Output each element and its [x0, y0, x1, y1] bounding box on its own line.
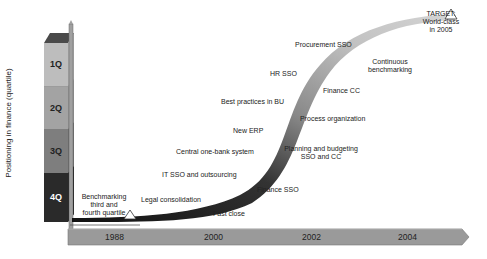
milestone-planning-budgeting: Planning and budgeting SSO and CC [282, 145, 360, 161]
year-2004: 2004 [398, 232, 417, 242]
quartile-4q: 4Q [44, 185, 68, 209]
milestone-line: SSO and CC [282, 153, 360, 161]
quartile-label: 3Q [50, 146, 62, 156]
milestone-hr-sso: HR SSO [270, 70, 297, 78]
target-label-line: TARGET: [420, 10, 462, 18]
start-label-line: Benchmarking [76, 193, 132, 201]
year-2000: 2000 [204, 232, 223, 242]
quartile-1q: 1Q [44, 52, 68, 76]
target-label-line: in 2005 [420, 26, 462, 34]
quartile-label: 1Q [50, 59, 62, 69]
target-label: TARGET: World-class in 2005 [420, 10, 462, 34]
start-label: Benchmarking third and fourth quartile [76, 193, 132, 217]
quartile-2q: 2Q [44, 96, 68, 120]
milestone-finance-cc: Finance CC [323, 87, 360, 95]
quartile-3q: 3Q [44, 139, 68, 163]
year-1988: 1988 [105, 232, 124, 242]
start-label-line: fourth quartile [76, 209, 132, 217]
quartile-label: 2Q [50, 103, 62, 113]
milestone-it-sso: IT SSO and outsourcing [162, 171, 237, 179]
start-label-line: third and [76, 201, 132, 209]
year-2002: 2002 [302, 232, 321, 242]
milestone-new-erp: New ERP [233, 127, 263, 135]
target-label-line: World-class [420, 18, 462, 26]
milestone-central-one-bank: Central one-bank system [176, 148, 254, 156]
milestone-best-practices: Best practices in BU [221, 98, 284, 106]
milestone-line: Planning and budgeting [282, 145, 360, 153]
milestone-line: benchmarking [360, 66, 420, 74]
quartile-label: 4Q [50, 192, 62, 202]
milestone-procurement-sso: Procurement SSO [295, 41, 352, 49]
milestone-line: Continuous [360, 58, 420, 66]
milestone-finance-sso: Finance SSO [257, 186, 299, 194]
milestone-legal-consolidation: Legal consolidation [141, 196, 201, 204]
milestone-process-organization: Process organization [300, 115, 365, 123]
milestone-continuous-benchmarking: Continuous benchmarking [360, 58, 420, 74]
milestone-fast-close: Fast close [213, 210, 245, 218]
